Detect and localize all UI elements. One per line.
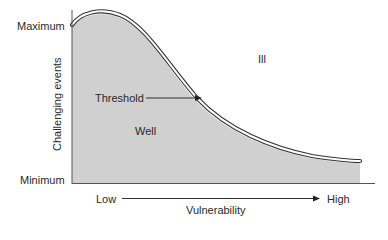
- x-low-label: Low: [96, 194, 116, 205]
- ill-region-label: Ill: [258, 54, 266, 65]
- y-min-label: Minimum: [20, 175, 65, 186]
- vulnerability-arrowhead-icon: [313, 196, 320, 202]
- x-high-label: High: [327, 194, 350, 205]
- well-region-label: Well: [135, 126, 156, 137]
- y-axis-label: Challenging events: [52, 57, 63, 151]
- threshold-label: Threshold: [95, 93, 144, 104]
- y-max-label: Maximum: [17, 21, 65, 32]
- x-axis-label: Vulnerability: [186, 205, 246, 216]
